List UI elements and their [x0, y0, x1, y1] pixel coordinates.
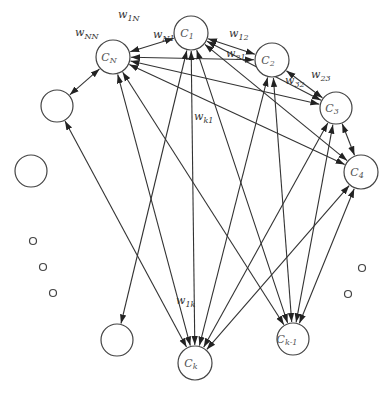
weight-label-subscript: k1 [203, 116, 213, 125]
weight-label-subscript: NN [83, 32, 99, 41]
weight-label-subscript: 1k [185, 300, 195, 309]
edge-c3-ck [204, 123, 328, 347]
concept-node-c1: C1 [174, 16, 208, 50]
node-label-subscript: k-1 [285, 338, 298, 347]
node-label-subscript: 3 [334, 107, 339, 116]
weight-label-w1n: w1N [118, 8, 141, 23]
weight-label-wnn: wNN [75, 26, 99, 41]
weight-label-w32: w32 [285, 74, 305, 89]
edge-c4-ck [207, 186, 349, 350]
node-label-subscript: N [109, 56, 118, 65]
edge-c3-c4 [342, 124, 354, 155]
concept-node-cn: CN [96, 40, 130, 74]
edge-c1-u3 [121, 51, 187, 324]
node-label-subscript: k [193, 362, 198, 371]
concept-node-u2 [15, 155, 47, 187]
edge-u1-ck [65, 121, 187, 347]
weight-label-w12: w12 [229, 27, 249, 42]
ellipsis-dot [345, 291, 352, 298]
edge-c4-ck-1 [299, 189, 354, 324]
concept-node-ck: Ck [178, 346, 212, 380]
node-circle [41, 90, 73, 122]
concept-node-u3 [101, 324, 133, 356]
concept-node-c3: C3 [320, 92, 352, 124]
weight-label-subscript: 1N [127, 14, 140, 23]
concept-node-c2: C2 [255, 43, 289, 77]
weight-label-subscript: 32 [294, 80, 304, 89]
edge-c3-ck-1 [296, 125, 333, 323]
weight-label-subscript: 12 [238, 33, 248, 42]
weight-label-w21: w21 [226, 47, 246, 62]
ellipsis-dot [50, 290, 57, 297]
edges-layer [65, 38, 355, 349]
node-label-subscript: 1 [189, 32, 194, 41]
concept-node-ck-1: Ck-1 [277, 323, 309, 355]
node-label-subscript: 2 [269, 59, 275, 68]
weight-label-subscript: 23 [319, 74, 330, 83]
ellipsis-dot [30, 238, 37, 245]
concept-graph-diagram: C1C2C3C4CNCkCk-1 w1NwNNwN1w12w21w32w23wk… [0, 0, 391, 394]
weight-label-wn1: wN1 [153, 28, 175, 43]
nodes-layer: C1C2C3C4CNCkCk-1 [15, 16, 378, 380]
edge-cn-u1 [70, 69, 100, 95]
ellipsis-dot [40, 264, 47, 271]
weight-label-subscript: N1 [161, 34, 174, 43]
node-circle [15, 155, 47, 187]
concept-node-c4: C4 [344, 155, 378, 189]
ellipsis-dot [359, 265, 366, 272]
weight-label-w23: w23 [311, 68, 331, 83]
concept-node-u1 [41, 90, 73, 122]
node-circle [101, 324, 133, 356]
ellipsis-dots [30, 238, 366, 298]
weight-label-wk1: wk1 [194, 110, 213, 125]
edge-c2-ck-1 [273, 78, 291, 322]
weight-label-w1k: w1k [176, 294, 196, 309]
weight-label-subscript: 21 [234, 53, 245, 62]
node-label-subscript: 4 [358, 171, 364, 180]
